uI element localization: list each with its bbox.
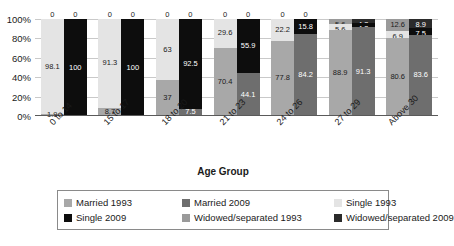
bar-segment[interactable]: 98.1 [41,19,64,114]
bar-1993[interactable]: 098.11.9 [41,19,64,116]
bar-value-label: 0 [108,11,112,19]
x-axis-tick: 0 to 14 [35,118,93,162]
legend-label: Single 2009 [76,212,126,223]
bar-segment[interactable]: 6.9 [386,31,409,38]
legend-label: Married 1993 [76,197,132,208]
bar-value-label: 22.2 [275,26,290,34]
y-axis-tick: 40% [0,72,31,83]
legend-item[interactable]: Widowed/separated 1993 [182,212,334,223]
legend-item[interactable]: Married 2009 [182,197,334,208]
bar-value-label: 70.4 [218,78,233,86]
bar-value-label: 91.3 [356,68,371,76]
x-axis-tick: 21 to 23 [208,118,266,162]
bar-segment[interactable]: 15.8 [294,19,317,34]
y-axis: 0%20%40%60%80%100% [0,19,33,116]
legend-label: Widowed/separated 2009 [346,212,454,223]
bar-value-label: 0 [131,11,135,19]
bar-1993[interactable]: 5.65.688.9 [329,19,352,116]
bar-value-label: 88.9 [333,69,348,77]
x-axis-labels: 0 to 1415 to 1718 to 2021 to 2324 to 262… [35,118,438,162]
bar-value-label: 29.6 [218,30,233,38]
bar-value-label: 0 [304,11,308,19]
bar-value-label: 0 [165,11,169,19]
bar-segment[interactable]: 91.3 [98,19,121,108]
bar-value-label: 0 [246,11,250,19]
legend-swatch-icon [64,199,72,207]
legend-label: Single 1993 [346,197,396,208]
legend-item[interactable]: Single 1993 [334,197,454,208]
bar-1993[interactable]: 091.38.7 [98,19,121,116]
x-axis-tick: 15 to 17 [93,118,151,162]
x-axis-tick: Above 30 [380,118,438,162]
bar-value-label: 83.6 [413,72,428,80]
bar-value-label: 0 [281,11,285,19]
bar-value-label: 12.6 [390,21,405,29]
bar-1993[interactable]: 06337 [156,19,179,116]
legend-swatch-icon [182,199,190,207]
bar-value-label: 80.6 [390,73,405,81]
bar-value-label: 0 [188,11,192,19]
bar-value-label: 0 [223,11,227,19]
x-axis-tick: 27 to 29 [323,118,381,162]
bar-value-label: 44.1 [241,91,256,99]
legend-label: Married 2009 [194,197,250,208]
bar-group: 098.11.90100 [35,19,93,116]
legend-label: Widowed/separated 1993 [194,212,302,223]
bar-value-label: 37 [163,94,171,102]
y-axis-tick: 80% [0,33,31,44]
bar-value-label: 77.8 [275,75,290,83]
bar-value-label: 100 [69,64,82,72]
y-axis-tick: 100% [0,14,31,25]
bar-value-label: 92.5 [183,60,198,68]
bar-value-label: 0 [73,11,77,19]
bar-segment[interactable]: 7.5 [409,28,432,35]
bar-1993[interactable]: 029.670.4 [214,19,237,116]
bar-segment[interactable]: 12.6 [386,19,409,31]
bar-segment[interactable]: 55.9 [237,19,260,73]
bar-segment[interactable]: 29.6 [214,19,237,48]
legend-item[interactable]: Widowed/separated 2009 [334,212,454,223]
bar-segment[interactable]: 63 [156,19,179,80]
bar-segment[interactable]: 92.5 [179,19,202,109]
chart-legend: Married 1993Married 2009Single 1993Singl… [57,190,389,230]
y-axis-tick: 0% [0,111,31,122]
legend-swatch-icon [334,214,342,222]
legend-swatch-icon [64,214,72,222]
legend-swatch-icon [182,214,190,222]
bar-value-label: 91.3 [103,60,118,68]
bar-value-label: 15.8 [298,23,313,31]
x-axis-tick: 18 to 20 [150,118,208,162]
bar-value-label: 55.9 [241,42,256,50]
x-axis-title: Age Group [0,166,446,177]
bar-segment[interactable]: 22.2 [271,19,294,41]
bar-value-label: 63 [163,46,171,54]
x-axis-line [35,115,438,116]
bar-1993[interactable]: 022.277.8 [271,19,294,116]
legend-swatch-icon [334,199,342,207]
x-axis-tick: 24 to 26 [265,118,323,162]
bar-segment[interactable]: 8.9 [409,19,432,28]
y-axis-tick: 60% [0,52,31,63]
bar-value-label: 98.1 [45,63,60,71]
bar-value-label: 84.2 [298,71,313,79]
bar-value-label: 100 [127,64,140,72]
legend-item[interactable]: Single 2009 [64,212,182,223]
legend-item[interactable]: Married 1993 [64,197,182,208]
bar-value-label: 0 [50,11,54,19]
y-axis-tick: 20% [0,91,31,102]
